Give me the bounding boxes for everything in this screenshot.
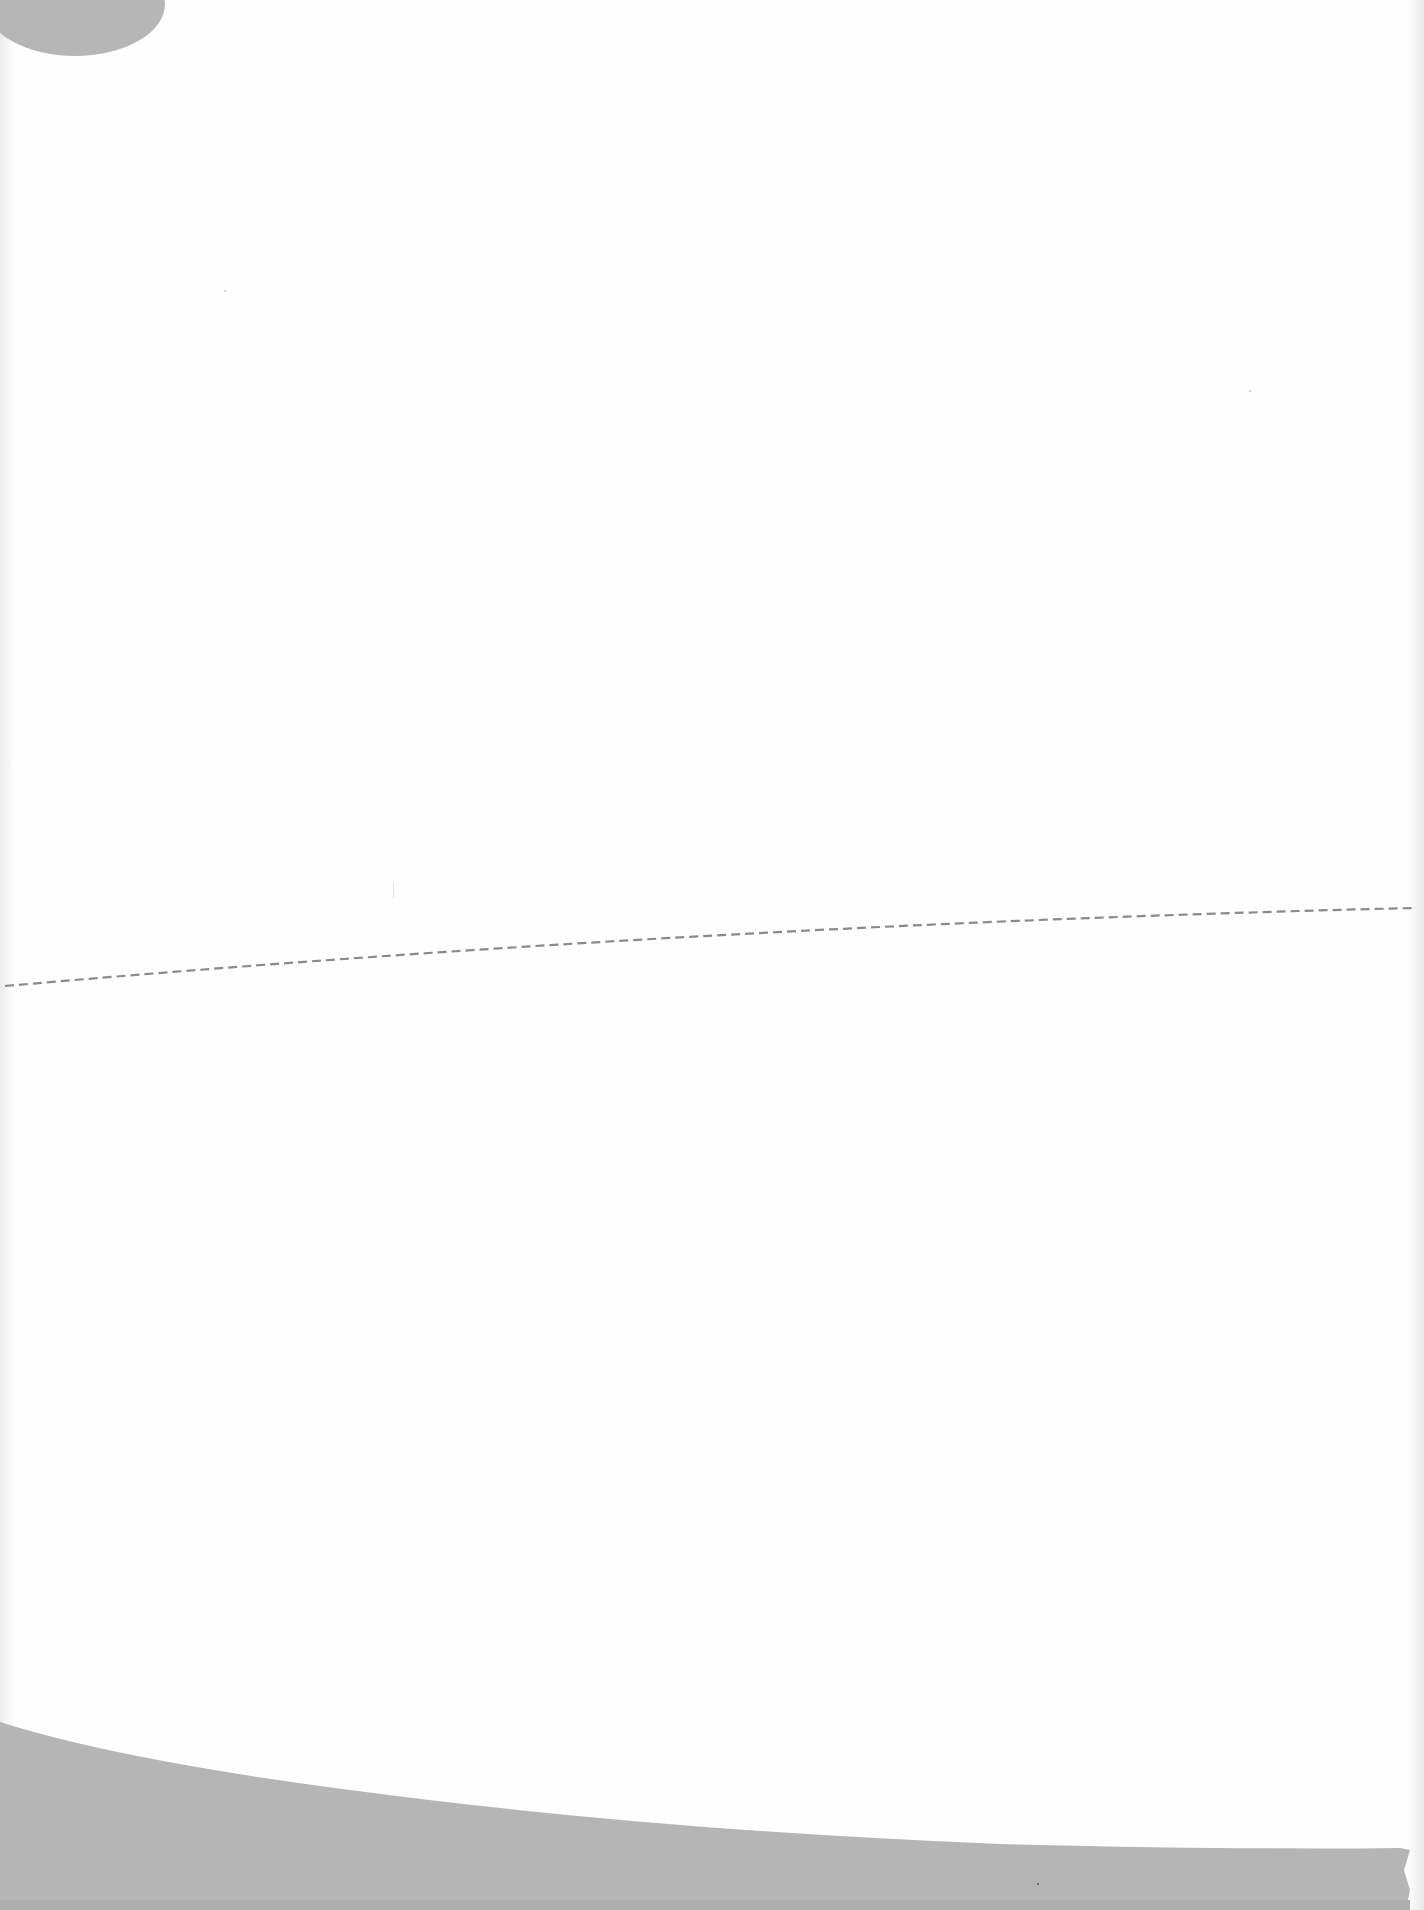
dust-speck (1037, 1883, 1039, 1885)
dust-speck (224, 290, 226, 292)
page-markings (0, 0, 1424, 1910)
scanned-page (0, 0, 1424, 1910)
bottom-edge-strip (0, 1900, 1410, 1910)
dust-speck (1249, 390, 1251, 392)
faint-vertical-mark (393, 882, 394, 898)
bottom-scan-shadow (0, 1722, 1410, 1910)
dashed-fold-line (5, 908, 1414, 986)
